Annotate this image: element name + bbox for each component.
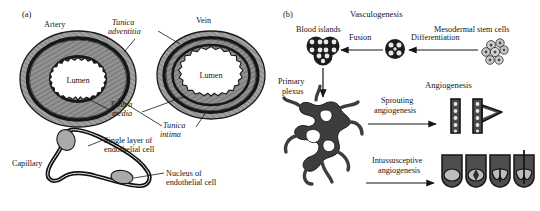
intussusceptive-line2: angiogenesis [378,166,420,175]
tunica-media-line2: media [112,109,132,118]
panel-a-label: (a) [22,9,32,19]
fusion-label: Fusion [349,33,371,42]
intussusception-stage-2 [466,155,486,187]
angiogenesis-heading: Angiogenesis [425,80,472,90]
intussusception-stage-4 [514,150,534,187]
single-layer-line1: Single layer of [104,136,152,145]
panel-a: (a) Lumen Artery L [12,9,265,187]
primary-plexus-line2: plexus [282,87,303,96]
capillary-label: Capillary [12,159,43,168]
artery-title: Artery [44,20,66,29]
tunica-adventitia-line2: adventitia [108,27,141,36]
vasculogenesis-heading: Vasculogenesis [350,9,403,19]
vein-diagram: Lumen Vein [157,16,265,119]
panel-b-label: (b) [283,9,293,19]
blood-islands-label: Blood islands [296,25,341,34]
sprouting-line1: Sprouting [381,96,413,105]
sprouting-vessel-straight [451,99,460,133]
primary-plexus-network [284,86,362,184]
figure-canvas: (a) Lumen Artery L [0,0,540,211]
panel-b: (b) Vasculogenesis Mesodermal stem cells… [278,9,534,187]
intussusception-stage-3 [490,155,510,187]
vein-title: Vein [196,16,211,25]
blood-island-single [385,39,405,59]
tunica-adventitia-line1: Tunica [112,18,134,27]
vein-lumen-label: Lumen [199,71,222,80]
primary-plexus-line1: Primary [278,77,305,86]
tunica-intima-line2: intima [160,130,181,139]
mesodermal-stem-cell-cluster [482,39,508,65]
differentiation-label: Differentiation [411,33,460,42]
nucleus-line2: endothelial cell [166,178,217,187]
intussusceptive-line1: Intussusceptive [372,156,423,165]
intussusception-stage-1 [442,155,462,187]
single-layer-line2: endothelial cell [104,145,155,154]
artery-lumen-label: Lumen [66,76,89,85]
tunica-intima-line1: Tunica [163,121,185,130]
figure-root: (a) Lumen Artery L [0,0,540,211]
nucleus-line1: Nucleus of [166,169,202,178]
sprouting-line2: angiogenesis [374,106,416,115]
blood-islands-cluster [307,37,340,66]
sprouting-vessel-branched [473,99,502,133]
